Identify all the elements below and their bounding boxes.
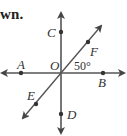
label-E: E <box>26 88 35 103</box>
point-C <box>59 30 63 34</box>
label-C: C <box>47 25 56 40</box>
point-D <box>59 112 63 116</box>
label-B: B <box>98 75 106 90</box>
angle-label: 50° <box>74 59 91 73</box>
label-D: D <box>66 107 77 122</box>
label-F: F <box>89 44 99 59</box>
label-O: O <box>50 58 60 73</box>
label-A: A <box>16 57 25 72</box>
geometry-diagram: A B C D E F O 50° <box>0 0 127 136</box>
